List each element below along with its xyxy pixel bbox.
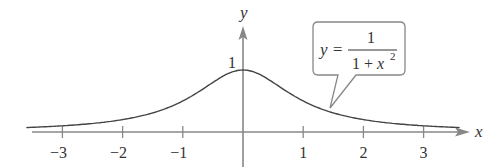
y-tick-label-1: 1: [228, 54, 236, 71]
callout-exponent: 2: [390, 50, 396, 62]
y-axis-label: y: [238, 3, 248, 22]
callout-denominator: 1 + x: [352, 55, 384, 72]
x-tick-label: 1: [299, 144, 307, 161]
x-tick-label: 2: [359, 144, 367, 161]
x-tick-label: −2: [110, 144, 127, 161]
x-axis-label: x: [474, 122, 483, 141]
chart-labels: y x 1 −3−2−1123 y = 1 1 + x 2: [0, 0, 499, 167]
x-tick-label: −3: [50, 144, 67, 161]
x-tick-label: 3: [420, 144, 428, 161]
callout-numerator: 1: [367, 29, 375, 46]
x-tick-label: −1: [170, 144, 187, 161]
x-tick-labels: −3−2−1123: [50, 144, 428, 161]
callout-lhs: y =: [318, 40, 343, 59]
